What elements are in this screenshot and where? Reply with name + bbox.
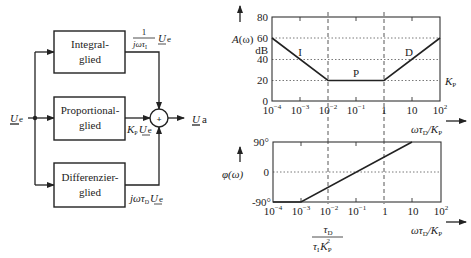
svg-text:glied: glied (79, 119, 101, 131)
differential-signal-label: jωτDUe (128, 192, 163, 205)
svg-text:0: 0 (264, 166, 270, 178)
phase-curve (273, 142, 412, 202)
svg-text:Differenzier-: Differenzier- (62, 171, 119, 183)
sum-junction: + (150, 109, 168, 127)
amplitude-xlabel: ωτD/KP (411, 123, 442, 137)
svg-text:1: 1 (142, 27, 147, 37)
svg-text:102: 102 (434, 204, 449, 217)
svg-text:10−1: 10−1 (348, 204, 367, 217)
output-label: Ua (192, 113, 207, 125)
svg-text:+: + (156, 114, 161, 124)
svg-text:10−1: 10−1 (347, 103, 366, 116)
block-diagram: Ue Integral- glied Proportional- glied D… (10, 27, 207, 207)
svg-text:Ue: Ue (158, 32, 171, 44)
svg-text:glied: glied (79, 53, 101, 65)
svg-text:10−4: 10−4 (264, 204, 283, 217)
integral-block: Integral- glied (54, 31, 125, 73)
phase-plot: φ(ω) 90° 0 -90° 10−4 10−3 10−2 10−1 1 10… (222, 136, 466, 254)
svg-text:τD: τD (324, 223, 333, 237)
svg-text:1: 1 (381, 104, 387, 116)
segment-label-P: P (353, 67, 359, 79)
svg-text:τIKP2: τIKP2 (313, 237, 332, 254)
svg-text:40: 40 (257, 53, 269, 65)
amplitude-ylabel: A(ω) (231, 33, 254, 46)
phase-xticks: 10−4 10−3 10−2 10−1 1 10 102 (264, 204, 449, 217)
segment-label-I: I (298, 46, 302, 58)
segment-label-D: D (405, 46, 413, 58)
svg-text:10−2: 10−2 (319, 103, 338, 116)
svg-text:102: 102 (433, 103, 448, 116)
input-label: Ue (10, 112, 23, 124)
amplitude-xticks: 10−4 10−3 10−2 10−1 1 10 102 (263, 103, 448, 116)
proportional-block: Proportional- glied (54, 97, 125, 140)
svg-text:glied: glied (79, 186, 101, 198)
differential-block: Differenzier- glied (54, 163, 125, 207)
svg-text:Proportional-: Proportional- (61, 104, 120, 116)
svg-text:KPUe: KPUe (126, 123, 152, 136)
svg-text:80: 80 (257, 11, 269, 23)
svg-text:10−4: 10−4 (263, 103, 282, 116)
svg-text:10: 10 (407, 104, 419, 116)
svg-text:10−2: 10−2 (320, 204, 339, 217)
integral-signal-label: 1 jωτI Ue (132, 27, 171, 50)
proportional-signal-label: KPUe (126, 123, 152, 136)
svg-text:90°: 90° (254, 136, 269, 148)
svg-text:60: 60 (257, 32, 269, 44)
phase-xlabel: ωτD/KP (411, 224, 442, 238)
phase-ylabel: φ(ω) (222, 168, 244, 181)
svg-text:10−3: 10−3 (291, 103, 310, 116)
amplitude-plot: A(ω) 80 60 dB 40 20 0 I P D KP 10−4 (231, 6, 466, 140)
svg-text:20: 20 (257, 74, 269, 86)
svg-text:jωτI: jωτI (132, 39, 147, 50)
amplitude-frame (272, 17, 440, 101)
svg-text:1: 1 (382, 205, 388, 217)
kp-label: KP (444, 75, 456, 89)
svg-text:10: 10 (408, 205, 420, 217)
svg-text:10−3: 10−3 (292, 204, 311, 217)
svg-text:jωτDUe: jωτDUe (128, 192, 163, 205)
svg-text:Integral-: Integral- (71, 38, 109, 50)
pid-controller-figure: Ue Integral- glied Proportional- glied D… (0, 0, 471, 258)
corner-frequency-annotation: τD τIKP2 (312, 223, 343, 254)
